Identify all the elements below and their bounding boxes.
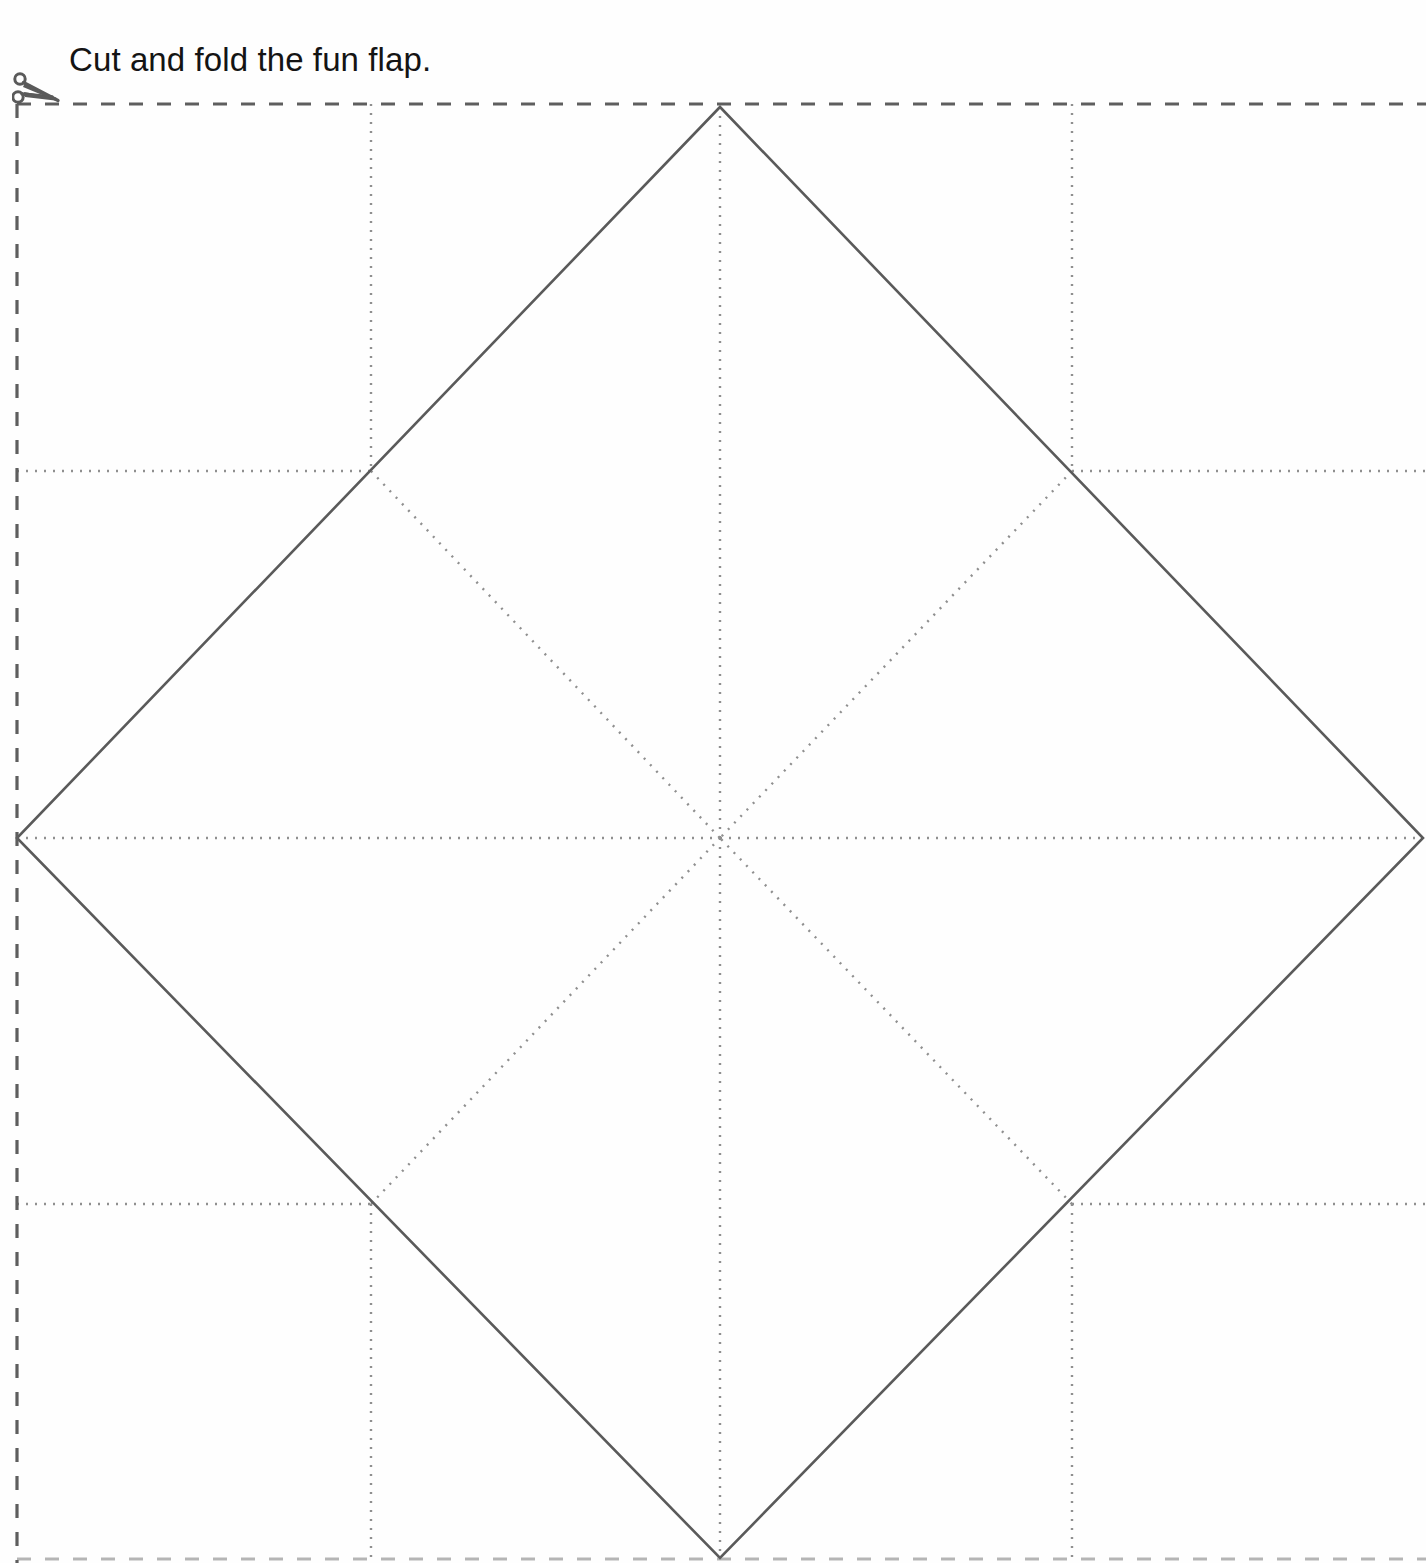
fold-diagonal-top-left: [371, 471, 720, 838]
fold-diagonal-top-right: [720, 471, 1072, 838]
fold-diagonal-bottom-right: [720, 838, 1072, 1204]
worksheet-page: Cut and fold the fun flap.: [0, 0, 1426, 1563]
fold-lines-inner: [17, 107, 1423, 1558]
instruction-text: Cut and fold the fun flap.: [69, 40, 431, 80]
scissors-icon: [12, 70, 64, 110]
cut-and-fold-diagram: [0, 0, 1426, 1563]
fold-guide-lines: [17, 104, 1426, 1563]
cut-border-lines: [17, 104, 1426, 1563]
fold-diagonal-bottom-left: [371, 838, 720, 1204]
